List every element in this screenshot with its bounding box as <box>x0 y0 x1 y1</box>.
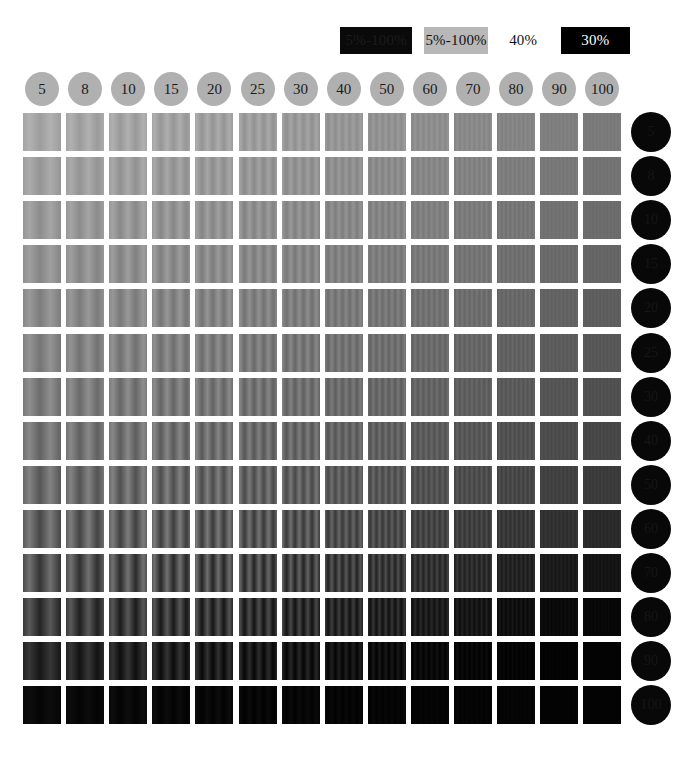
legend-label: 40% <box>509 32 537 49</box>
grating-pattern <box>325 157 363 195</box>
grating-pattern <box>239 642 277 680</box>
grating-pattern <box>454 289 492 327</box>
grating-pattern <box>152 642 190 680</box>
grating-patch <box>66 554 104 592</box>
grating-patch <box>411 554 449 592</box>
grating-pattern <box>152 686 190 724</box>
grating-patch <box>368 113 406 151</box>
grating-pattern <box>583 334 621 372</box>
grating-grid <box>23 113 623 738</box>
grating-patch <box>152 245 190 283</box>
grating-pattern <box>23 113 61 151</box>
grating-patch <box>66 201 104 239</box>
legend-swatch-black: 30% <box>561 27 630 54</box>
grating-pattern <box>540 289 578 327</box>
grating-pattern <box>152 201 190 239</box>
grating-pattern <box>368 289 406 327</box>
column-header-30: 30 <box>284 72 318 106</box>
grating-pattern <box>282 157 320 195</box>
grating-patch <box>23 642 61 680</box>
grating-patch <box>325 334 363 372</box>
grating-pattern <box>583 245 621 283</box>
grating-pattern <box>239 686 277 724</box>
grating-pattern <box>282 686 320 724</box>
column-header-15: 15 <box>154 72 188 106</box>
grating-patch <box>66 598 104 636</box>
grating-patch <box>239 510 277 548</box>
grating-pattern <box>195 378 233 416</box>
grating-patch <box>497 598 535 636</box>
grating-pattern <box>239 334 277 372</box>
grating-patch <box>497 201 535 239</box>
grating-patch <box>109 510 147 548</box>
grating-pattern <box>454 334 492 372</box>
grating-pattern <box>325 686 363 724</box>
grating-patch <box>325 642 363 680</box>
grating-pattern <box>195 510 233 548</box>
grating-patch <box>23 686 61 724</box>
grating-pattern <box>411 554 449 592</box>
grating-patch <box>497 245 535 283</box>
grating-pattern <box>239 422 277 460</box>
grating-pattern <box>411 510 449 548</box>
grating-pattern <box>195 113 233 151</box>
row-label-50: 50 <box>631 465 671 505</box>
grating-pattern <box>368 334 406 372</box>
grating-patch <box>109 289 147 327</box>
grating-pattern <box>411 642 449 680</box>
grating-patch <box>282 422 320 460</box>
grating-pattern <box>325 201 363 239</box>
grating-pattern <box>454 554 492 592</box>
row-label-90: 90 <box>631 641 671 681</box>
grating-patch <box>368 157 406 195</box>
grating-patch <box>239 422 277 460</box>
grating-pattern <box>109 598 147 636</box>
grating-pattern <box>497 554 535 592</box>
grating-pattern <box>195 245 233 283</box>
grating-pattern <box>66 157 104 195</box>
grating-pattern <box>66 289 104 327</box>
grating-patch <box>368 422 406 460</box>
column-header-label: 100 <box>591 82 614 97</box>
grating-pattern <box>497 201 535 239</box>
grating-patch <box>239 598 277 636</box>
grating-patch <box>23 422 61 460</box>
grating-pattern <box>195 554 233 592</box>
grating-pattern <box>325 245 363 283</box>
grating-pattern <box>282 378 320 416</box>
grating-pattern <box>325 598 363 636</box>
grating-pattern <box>109 289 147 327</box>
grating-pattern <box>66 510 104 548</box>
grating-patch <box>411 378 449 416</box>
grating-patch <box>195 598 233 636</box>
grating-pattern <box>454 466 492 504</box>
grating-patch <box>66 510 104 548</box>
grating-patch <box>540 289 578 327</box>
legend-swatch-plain: 40% <box>500 27 547 54</box>
grating-pattern <box>454 157 492 195</box>
grating-patch <box>282 598 320 636</box>
grating-pattern <box>540 245 578 283</box>
grating-patch <box>454 334 492 372</box>
grating-pattern <box>239 157 277 195</box>
grating-pattern <box>325 378 363 416</box>
grating-patch <box>325 245 363 283</box>
grating-patch <box>583 554 621 592</box>
grating-pattern <box>325 554 363 592</box>
grating-pattern <box>540 157 578 195</box>
grating-patch <box>66 113 104 151</box>
grating-patch <box>195 289 233 327</box>
grating-pattern <box>325 289 363 327</box>
grating-pattern <box>411 422 449 460</box>
column-header-label: 70 <box>466 82 481 97</box>
grating-pattern <box>239 554 277 592</box>
row-label-100: 100 <box>631 685 671 725</box>
grating-pattern <box>23 334 61 372</box>
grating-pattern <box>368 686 406 724</box>
grating-patch <box>195 422 233 460</box>
grating-pattern <box>282 642 320 680</box>
grating-pattern <box>239 466 277 504</box>
row-label-5: 5 <box>631 112 671 152</box>
grating-patch <box>109 378 147 416</box>
column-header-label: 80 <box>509 82 524 97</box>
